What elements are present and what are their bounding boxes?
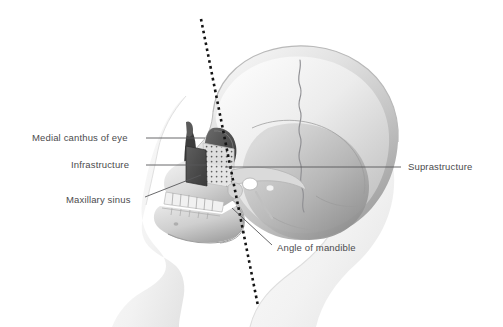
label-angle-of-mandible: Angle of mandible (277, 242, 356, 253)
label-medial-canthus-of-eye: Medial canthus of eye (32, 132, 128, 143)
label-maxillary-sinus: Maxillary sinus (66, 194, 131, 205)
label-infrastructure: Infrastructure (71, 159, 129, 170)
skull-diagram-figure: Medial canthus of eye Infrastructure Max… (0, 0, 503, 327)
label-suprastructure: Suprastructure (408, 161, 472, 172)
